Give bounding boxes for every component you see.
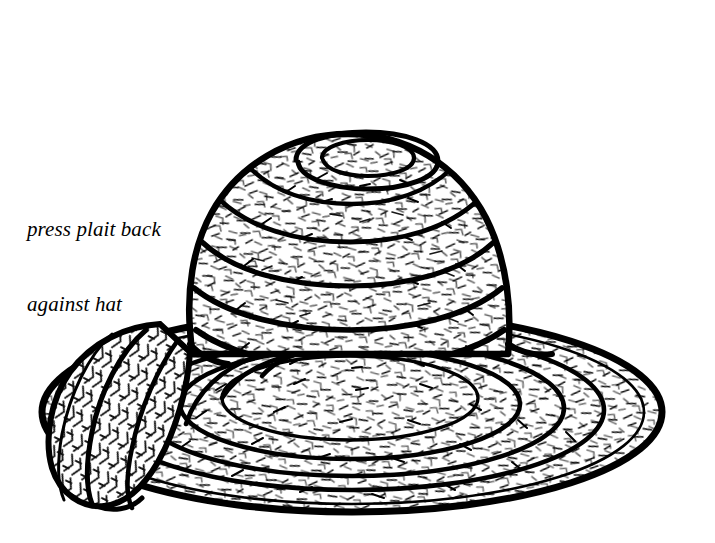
- illustration-canvas: press plait back against hat: [0, 0, 715, 543]
- caption-line-2: against hat: [27, 292, 237, 317]
- caption-annotation: press plait back against hat: [27, 167, 237, 367]
- caption-line-1: press plait back: [27, 217, 237, 242]
